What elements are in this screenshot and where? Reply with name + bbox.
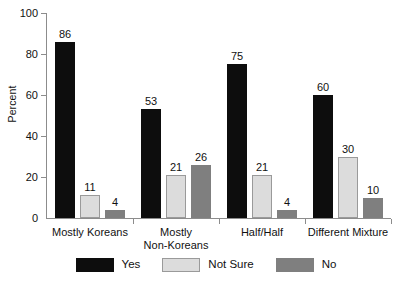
legend-swatch-icon [162, 258, 200, 272]
y-axis-tick-label: 40 [12, 131, 38, 142]
bar-value-label: 86 [49, 29, 81, 40]
legend-swatch-icon [76, 258, 114, 272]
x-axis-tick [305, 219, 306, 224]
legend-label: Yes [122, 259, 141, 271]
bar [252, 175, 272, 218]
chart-legend: YesNot SureNo [0, 258, 412, 272]
bar-value-label: 11 [74, 182, 106, 193]
bar-value-label: 26 [185, 152, 217, 163]
bar-value-label: 10 [357, 185, 389, 196]
x-axis-group-label: Mostly Koreans [40, 226, 140, 239]
bar-value-label: 21 [160, 162, 192, 173]
legend-item[interactable]: Not Sure [162, 258, 253, 272]
bar [141, 109, 161, 218]
x-axis-tick [219, 219, 220, 224]
bar [313, 95, 333, 218]
y-axis-tick-label: 0 [12, 213, 38, 224]
bar [338, 157, 358, 219]
legend-item[interactable]: Yes [76, 258, 141, 272]
bar [363, 198, 383, 219]
bar-value-label: 21 [246, 162, 278, 173]
bar [166, 175, 186, 218]
x-axis-group-label: Half/Half [212, 226, 312, 239]
bar-chart: Percent 100806040200 8611453212675214603… [0, 0, 412, 281]
y-axis-tick-labels: 100806040200 [8, 0, 38, 281]
x-axis-tick [391, 219, 392, 224]
bar [191, 165, 211, 218]
bar [227, 64, 247, 218]
bar-value-label: 4 [99, 197, 131, 208]
y-axis-tick-label: 100 [12, 8, 38, 19]
legend-swatch-icon [276, 258, 314, 272]
bar [80, 195, 100, 218]
bar-value-label: 60 [307, 82, 339, 93]
x-axis-group-label: Different Mixture [298, 226, 398, 239]
legend-label: Not Sure [208, 259, 253, 271]
bar-value-label: 30 [332, 144, 364, 155]
bar [55, 42, 75, 218]
x-axis-group-label: Mostly Non-Koreans [126, 226, 226, 251]
y-axis-tick-label: 80 [12, 49, 38, 60]
bar-value-label: 75 [221, 51, 253, 62]
legend-label: No [322, 259, 337, 271]
legend-item[interactable]: No [276, 258, 337, 272]
y-axis-tick-label: 60 [12, 90, 38, 101]
x-axis-tick [133, 219, 134, 224]
bar-value-label: 53 [135, 96, 167, 107]
y-axis-tick-label: 20 [12, 172, 38, 183]
bar [105, 210, 125, 218]
bar-value-label: 4 [271, 197, 303, 208]
bar [277, 210, 297, 218]
